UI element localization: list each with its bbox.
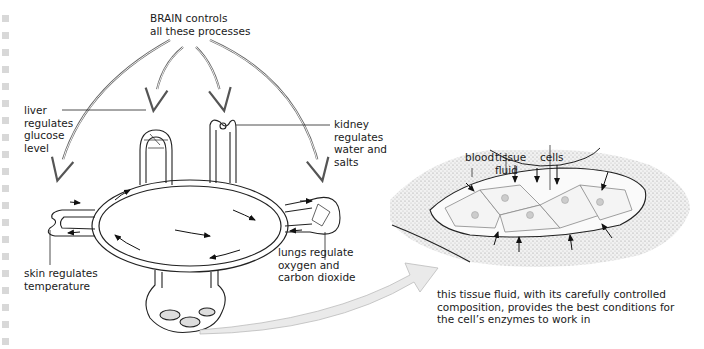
brain-control-arrows <box>60 40 320 170</box>
circulation-loop <box>92 180 288 272</box>
blood-label: blood <box>465 151 494 164</box>
tissue-fluid-label: tissue fluid <box>495 151 526 176</box>
lungs-organ <box>285 197 340 234</box>
brain-label: BRAIN controls all these processes <box>150 12 250 37</box>
liver-organ <box>140 130 172 185</box>
skin-organ <box>48 210 95 236</box>
kidney-label: kidney regulates water and salts <box>334 118 387 168</box>
kidney-organ <box>210 120 236 183</box>
liver-label: liver regulates glucose level <box>24 104 73 154</box>
gut-organ <box>146 270 225 332</box>
cells-label: cells <box>540 151 564 164</box>
lungs-label: lungs regulate oxygen and carbon dioxide <box>278 246 356 284</box>
skin-label: skin regulates temperature <box>24 267 98 292</box>
tissue-caption: this tissue fluid, with its carefully co… <box>437 288 674 326</box>
